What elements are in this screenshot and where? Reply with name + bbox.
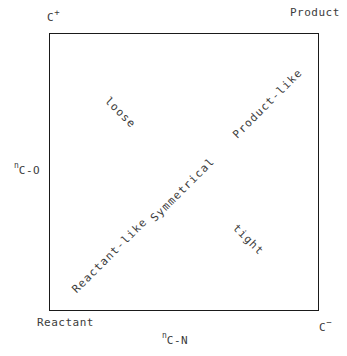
corner-label-top-left-charge: + <box>54 7 60 17</box>
corner-label-bottom-right-charge: − <box>326 317 332 327</box>
y-axis-label-body: C-O <box>19 164 40 177</box>
x-axis-label: nC-N <box>162 331 188 347</box>
corner-label-top-right: Product <box>290 7 340 19</box>
reaction-coordinate-figure: C+ Product Reactant C− nC-O nC-N loose P… <box>0 0 347 356</box>
corner-label-bottom-left: Reactant <box>37 317 94 329</box>
y-axis-label: nC-O <box>14 161 40 177</box>
x-axis-label-body: C-N <box>167 334 188 347</box>
corner-label-bottom-right: C− <box>319 317 332 334</box>
corner-label-top-left: C+ <box>47 7 60 24</box>
y-axis-label-prefix: n <box>14 161 19 170</box>
x-axis-label-prefix: n <box>162 331 167 340</box>
